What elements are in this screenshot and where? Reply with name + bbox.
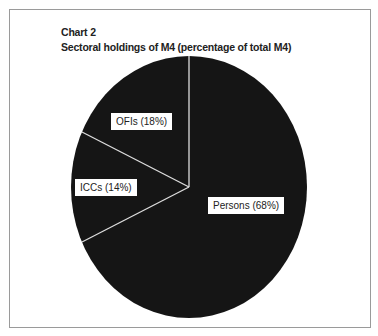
slice-label-iccs: ICCs (14%) [75, 179, 137, 196]
pie-chart [0, 0, 378, 336]
slice-label-persons: Persons (68%) [208, 197, 284, 214]
slice-label-ofis: OFIs (18%) [111, 113, 172, 130]
